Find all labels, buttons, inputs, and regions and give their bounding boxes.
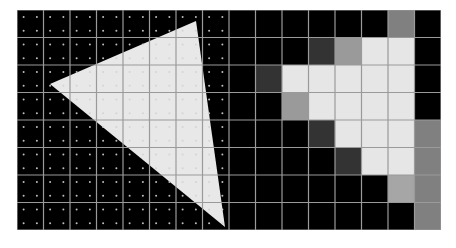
sample-dot <box>102 195 104 197</box>
sample-dot <box>208 71 210 73</box>
sample-dot <box>36 43 38 45</box>
sample-dot <box>23 222 25 224</box>
sample-dot <box>49 71 51 73</box>
sample-dot <box>102 126 104 128</box>
coverage-pixel <box>282 93 309 121</box>
sample-dot <box>155 153 157 155</box>
coverage-pixel <box>335 10 362 38</box>
sample-dot <box>155 181 157 183</box>
sample-dot <box>76 43 78 45</box>
sample-dot <box>182 140 184 142</box>
sample-dot <box>115 222 117 224</box>
sample-dot <box>142 57 144 59</box>
sample-dot <box>102 222 104 224</box>
sample-dot <box>208 85 210 87</box>
sample-dot <box>195 126 197 128</box>
sample-dot <box>62 195 64 197</box>
sample-dot <box>221 126 223 128</box>
sample-dot <box>62 167 64 169</box>
sample-dot <box>195 153 197 155</box>
sample-dot <box>155 98 157 100</box>
sample-dot <box>182 222 184 224</box>
pixel-coverage-panel <box>229 10 441 230</box>
sample-dot <box>23 181 25 183</box>
sample-dot <box>62 30 64 32</box>
sample-dot <box>195 208 197 210</box>
sample-dot <box>102 112 104 114</box>
coverage-pixel <box>229 120 256 148</box>
sample-dot <box>23 195 25 197</box>
sample-dot <box>115 98 117 100</box>
coverage-pixel <box>309 65 336 93</box>
sample-dot <box>182 71 184 73</box>
sample-dot <box>168 30 170 32</box>
sample-dot <box>102 153 104 155</box>
sample-dot <box>89 112 91 114</box>
coverage-pixel <box>415 120 442 148</box>
sample-dot <box>115 71 117 73</box>
coverage-pixel <box>229 203 256 231</box>
sample-dot <box>142 167 144 169</box>
sample-dot <box>36 16 38 18</box>
coverage-pixel <box>229 65 256 93</box>
coverage-pixel <box>335 175 362 203</box>
sample-dot <box>182 30 184 32</box>
sample-dot <box>89 208 91 210</box>
sample-dot <box>142 126 144 128</box>
coverage-pixel <box>415 38 442 66</box>
sample-dot <box>36 126 38 128</box>
sample-dot <box>129 181 131 183</box>
coverage-pixel <box>362 120 389 148</box>
sample-dot <box>142 43 144 45</box>
coverage-pixel <box>282 38 309 66</box>
sample-dot <box>102 98 104 100</box>
coverage-pixel <box>309 10 336 38</box>
sample-dot <box>155 30 157 32</box>
sample-dot <box>195 140 197 142</box>
sample-dot <box>115 181 117 183</box>
sample-dot <box>102 30 104 32</box>
coverage-pixel <box>388 38 415 66</box>
sample-dot <box>208 98 210 100</box>
sample-dot <box>89 153 91 155</box>
sample-dot <box>155 140 157 142</box>
sample-dot <box>49 167 51 169</box>
sample-dot <box>89 167 91 169</box>
coverage-pixel <box>229 175 256 203</box>
sample-dot <box>23 30 25 32</box>
sample-dot <box>36 181 38 183</box>
sample-dot <box>208 181 210 183</box>
sample-dot <box>182 181 184 183</box>
sample-dot <box>49 16 51 18</box>
sample-dot <box>208 153 210 155</box>
sample-dot <box>208 30 210 32</box>
sample-dot <box>221 208 223 210</box>
sample-dot <box>23 126 25 128</box>
coverage-pixel <box>362 10 389 38</box>
sample-dot <box>49 208 51 210</box>
sample-dot <box>221 98 223 100</box>
sample-dot <box>195 167 197 169</box>
sample-dot <box>62 57 64 59</box>
sample-dot <box>102 16 104 18</box>
sample-dot <box>155 195 157 197</box>
sample-dot <box>142 30 144 32</box>
sample-dot <box>76 57 78 59</box>
sample-dot <box>195 222 197 224</box>
sample-dot <box>89 195 91 197</box>
sample-dot <box>142 112 144 114</box>
supersampled-triangle-panel <box>17 10 229 230</box>
sample-dot <box>49 181 51 183</box>
sample-dot <box>168 195 170 197</box>
sample-dot <box>115 30 117 32</box>
sample-dot <box>89 98 91 100</box>
sample-dot <box>115 208 117 210</box>
coverage-pixel <box>415 203 442 231</box>
sample-dot <box>182 98 184 100</box>
sample-dot <box>49 43 51 45</box>
sample-dot <box>62 140 64 142</box>
coverage-pixel <box>256 38 283 66</box>
sample-dot <box>168 85 170 87</box>
sample-dot <box>76 208 78 210</box>
sample-dot <box>49 30 51 32</box>
